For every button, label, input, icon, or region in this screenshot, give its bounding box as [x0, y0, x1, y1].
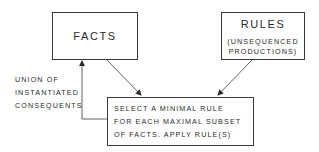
- rules-box: RULES (UNSEQUENCED PRODUCTIONS): [221, 12, 305, 60]
- arrow-select-to-facts: [82, 61, 107, 119]
- select-rule-box: SELECT A MINIMAL RULE FOR EACH MAXIMAL S…: [107, 97, 254, 146]
- facts-box: FACTS: [52, 12, 138, 60]
- feedback-label-line1: UNION OF: [15, 75, 83, 85]
- facts-label: FACTS: [53, 30, 137, 42]
- feedback-label-line3: CONSEQUENTS: [15, 101, 83, 111]
- rules-title: RULES: [222, 18, 304, 30]
- rules-subtitle-line1: (UNSEQUENCED: [222, 37, 304, 47]
- select-line2: FOR EACH MAXIMAL SUBSET: [114, 117, 241, 127]
- select-line3: OF FACTS. APPLY RULE(S): [114, 130, 231, 140]
- feedback-label: UNION OF INSTANTIATED CONSEQUENTS: [15, 75, 83, 111]
- feedback-label-line2: INSTANTIATED: [15, 88, 83, 98]
- select-line1: SELECT A MINIMAL RULE: [114, 104, 224, 114]
- rules-subtitle-line2: PRODUCTIONS): [222, 47, 304, 57]
- arrow-rules-to-select: [218, 59, 253, 95]
- arrow-facts-to-select: [106, 59, 141, 95]
